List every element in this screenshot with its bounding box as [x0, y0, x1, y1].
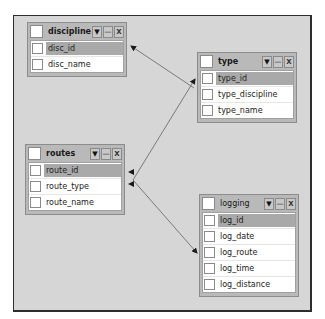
select-table-checkbox[interactable]: [202, 197, 215, 210]
table-header[interactable]: type ▼ — X: [200, 55, 294, 68]
field-name: type_discipline: [216, 88, 293, 101]
select-table-checkbox[interactable]: [30, 25, 43, 38]
field-name: log_date: [218, 230, 295, 243]
dropdown-icon[interactable]: ▼: [262, 56, 272, 68]
field-checkbox[interactable]: [204, 279, 215, 290]
minimize-icon[interactable]: —: [101, 148, 111, 160]
dropdown-icon[interactable]: ▼: [264, 198, 274, 210]
field-checkbox[interactable]: [204, 263, 215, 274]
table-header[interactable]: discipline ▼ — X: [30, 25, 124, 38]
table-title: type: [213, 57, 261, 66]
field-name: log_route: [218, 246, 295, 259]
field-row[interactable]: route_type: [29, 179, 121, 195]
field-checkbox[interactable]: [30, 181, 41, 192]
close-icon[interactable]: X: [114, 26, 124, 38]
field-name: disc_id: [46, 42, 123, 55]
close-icon[interactable]: X: [286, 198, 296, 210]
field-row[interactable]: log_date: [203, 229, 295, 245]
close-icon[interactable]: X: [284, 56, 294, 68]
select-table-checkbox[interactable]: [200, 55, 213, 68]
table-type[interactable]: type ▼ — X type_id type_discipline type_…: [197, 52, 297, 123]
table-routes[interactable]: routes ▼ — X route_id route_type route_n…: [25, 144, 125, 215]
minimize-icon[interactable]: —: [275, 198, 285, 210]
field-row[interactable]: route_name: [29, 195, 121, 210]
field-name: disc_name: [46, 58, 123, 71]
field-name: log_time: [218, 262, 295, 275]
field-row[interactable]: type_id: [201, 71, 293, 87]
table-header[interactable]: logging ▼ — X: [202, 197, 296, 210]
field-checkbox[interactable]: [32, 59, 43, 70]
field-name: route_type: [44, 180, 121, 193]
close-icon[interactable]: X: [112, 148, 122, 160]
field-name: log_id: [218, 214, 295, 227]
field-checkbox[interactable]: [202, 89, 213, 100]
table-discipline[interactable]: discipline ▼ — X disc_id disc_name: [27, 22, 127, 77]
table-title: logging: [215, 199, 263, 208]
table-title: routes: [41, 149, 89, 158]
minimize-icon[interactable]: —: [103, 26, 113, 38]
field-row[interactable]: type_discipline: [201, 87, 293, 103]
field-checkbox[interactable]: [32, 43, 43, 54]
select-table-checkbox[interactable]: [28, 147, 41, 160]
field-name: type_id: [216, 72, 293, 85]
field-row[interactable]: log_distance: [203, 277, 295, 292]
field-checkbox[interactable]: [204, 215, 215, 226]
dropdown-icon[interactable]: ▼: [90, 148, 100, 160]
field-row[interactable]: type_name: [201, 103, 293, 118]
field-name: type_name: [216, 104, 293, 117]
field-checkbox[interactable]: [30, 197, 41, 208]
field-row[interactable]: log_id: [203, 213, 295, 229]
table-header[interactable]: routes ▼ — X: [28, 147, 122, 160]
field-name: route_name: [44, 196, 121, 209]
minimize-icon[interactable]: —: [273, 56, 283, 68]
field-row[interactable]: disc_name: [31, 57, 123, 72]
field-name: log_distance: [218, 278, 295, 291]
field-checkbox[interactable]: [204, 247, 215, 258]
field-checkbox[interactable]: [30, 165, 41, 176]
table-title: discipline: [43, 27, 91, 36]
field-checkbox[interactable]: [202, 73, 213, 84]
field-row[interactable]: route_id: [29, 163, 121, 179]
field-checkbox[interactable]: [202, 105, 213, 116]
field-name: route_id: [44, 164, 121, 177]
field-row[interactable]: log_time: [203, 261, 295, 277]
table-logging[interactable]: logging ▼ — X log_id log_date log_route …: [199, 194, 299, 297]
field-checkbox[interactable]: [204, 231, 215, 242]
dropdown-icon[interactable]: ▼: [92, 26, 102, 38]
field-row[interactable]: disc_id: [31, 41, 123, 57]
field-row[interactable]: log_route: [203, 245, 295, 261]
